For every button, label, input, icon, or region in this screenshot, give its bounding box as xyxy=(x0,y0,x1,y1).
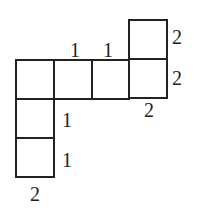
label-right-upper: 2 xyxy=(172,26,182,48)
label-top-mid-left: 1 xyxy=(70,39,80,61)
cell-row-4 xyxy=(129,59,167,98)
label-left-col-lower: 1 xyxy=(62,149,72,171)
label-bottom-right: 2 xyxy=(144,99,154,121)
label-right-lower: 2 xyxy=(172,67,182,89)
label-top-mid-right: 1 xyxy=(103,39,113,61)
labels: 1 1 2 2 2 1 1 2 xyxy=(30,26,182,205)
cell-col-2 xyxy=(16,138,54,177)
cell-row-2 xyxy=(54,60,92,99)
cell-row-1 xyxy=(16,60,54,99)
cell-row-3 xyxy=(92,60,129,99)
label-left-col-upper: 1 xyxy=(62,109,72,131)
cell-col-1 xyxy=(16,99,54,138)
square-net-diagram: 1 1 2 2 2 1 1 2 xyxy=(0,0,198,211)
cell-top-right xyxy=(129,20,167,59)
label-bottom-left: 2 xyxy=(30,183,40,205)
